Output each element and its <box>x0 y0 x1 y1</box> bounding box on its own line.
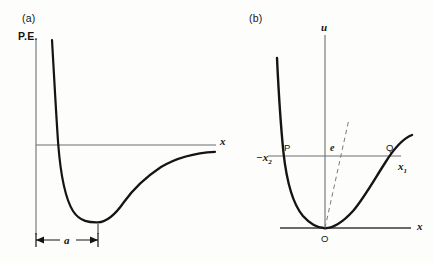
physics-figure: (a) P.E. x a (b) u x O e P Q −x2 x1 <box>0 0 433 263</box>
panel-b-point-p-label: P <box>284 143 291 153</box>
panel-b-point-q-label: Q <box>386 143 394 153</box>
figure-canvas <box>0 0 433 263</box>
panel-a-tag: (a) <box>22 13 35 24</box>
panel-b-tag: (b) <box>249 13 262 24</box>
panel-b-dashed-tangent-line <box>325 119 349 228</box>
panel-b-origin-label: O <box>321 234 329 244</box>
panel-a-x-axis-label: x <box>220 136 226 147</box>
left-turning-point-subscript: 2 <box>268 158 272 166</box>
panel-a-arrow-head-right <box>90 237 98 244</box>
panel-b-x-axis-label: x <box>417 221 423 232</box>
panel-a-arrow-head-left <box>36 237 44 244</box>
panel-b-left-turning-point-label: −x2 <box>256 152 272 166</box>
panel-a-potential-curve <box>52 40 215 222</box>
panel-b-right-turning-point-label: x1 <box>398 161 407 175</box>
panel-b-energy-label: e <box>330 143 334 153</box>
panel-a-group <box>36 40 216 247</box>
panel-b-u-axis-label: u <box>321 22 327 33</box>
left-turning-point-symbol: −x <box>256 151 268 163</box>
panel-b-group <box>268 35 412 228</box>
panel-a-y-axis-label: P.E. <box>18 31 38 42</box>
panel-a-separation-label: a <box>64 235 70 246</box>
right-turning-point-subscript: 1 <box>404 167 408 175</box>
